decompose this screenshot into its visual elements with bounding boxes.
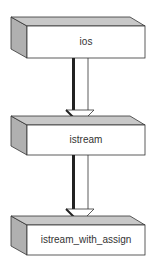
node-istream-with-assign-label: istream_with_assign — [27, 234, 145, 245]
node-ios-label: ios — [27, 36, 145, 47]
inheritance-arrow-1 — [66, 58, 94, 124]
inheritance-arrow-2 — [66, 155, 94, 223]
node-istream-label: istream — [27, 134, 145, 145]
